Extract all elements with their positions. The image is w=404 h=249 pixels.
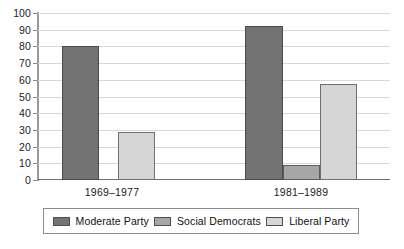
legend-swatch-icon [266,217,283,226]
legend-item-social-democrats: Social Democrats [154,216,261,227]
legend-swatch-icon [53,217,70,226]
legend-label: Social Democrats [177,216,261,227]
gridline [38,13,390,14]
bar-chart: 100 90 80 70 60 50 40 30 20 10 0 [0,0,404,249]
y-axis-labels: 100 90 80 70 60 50 40 30 20 10 0 [0,0,31,249]
legend-swatch-icon [154,217,171,226]
bar-social-democrats-1981-1989 [283,165,320,180]
y-tick-label: 20 [3,142,31,152]
y-tick-label: 80 [3,41,31,51]
gridline [38,30,390,31]
legend-item-moderate-party: Moderate Party [53,216,149,227]
y-tick-label: 50 [3,92,31,102]
y-tick-label: 90 [3,25,31,35]
legend-label: Moderate Party [76,216,149,227]
legend-label: Liberal Party [289,216,349,227]
chart-legend: Moderate Party Social Democrats Liberal … [43,208,359,234]
y-tick-label: 0 [3,175,31,185]
bar-liberal-party-1981-1989 [320,84,357,180]
legend-item-liberal-party: Liberal Party [266,216,349,227]
plot-area [38,13,390,180]
y-tick-label: 60 [3,75,31,85]
x-category-label-2: 1981–1989 [251,186,351,198]
bar-liberal-party-1969-1977 [118,132,155,180]
x-category-label-1: 1969–1977 [62,186,162,198]
y-tick-label: 70 [3,58,31,68]
y-tick-label: 100 [3,8,31,18]
bar-moderate-party-1969-1977 [62,46,99,180]
y-tick-label: 30 [3,125,31,135]
bar-moderate-party-1981-1989 [245,26,283,180]
y-tick-label: 40 [3,108,31,118]
y-tick-label: 10 [3,158,31,168]
